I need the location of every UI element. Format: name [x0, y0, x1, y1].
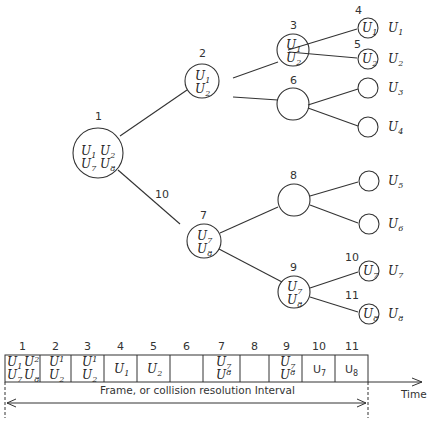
svg-text:U1: U1 [82, 355, 97, 369]
svg-text:11: 11 [345, 340, 359, 353]
svg-text:U8: U8 [345, 363, 358, 378]
svg-text:U8: U8 [388, 307, 403, 323]
svg-text:7: 7 [200, 209, 207, 222]
svg-text:U5: U5 [388, 174, 403, 190]
svg-text:1: 1 [19, 340, 26, 353]
svg-text:U2: U2 [362, 52, 377, 68]
svg-text:U3: U3 [388, 81, 403, 97]
svg-text:U2: U2 [24, 355, 39, 369]
svg-text:U1: U1 [49, 355, 64, 369]
time-label: Time [400, 388, 427, 400]
svg-text:11: 11 [345, 289, 359, 302]
svg-text:U1: U1 [114, 362, 129, 378]
svg-text:U2: U2 [82, 368, 97, 384]
svg-text:U7: U7 [363, 264, 379, 280]
svg-text:U2: U2 [147, 362, 162, 378]
svg-text:U8: U8 [280, 368, 295, 382]
svg-text:1: 1 [95, 110, 102, 123]
svg-text:10: 10 [155, 188, 169, 201]
svg-text:2: 2 [52, 340, 59, 353]
tree-diagram: 1 2 3 4 5 6 7 8 9 10 11 10 U1 U2 U7 U8 U… [0, 0, 433, 424]
svg-text:U6: U6 [388, 217, 403, 233]
svg-text:8: 8 [290, 169, 297, 182]
svg-text:U1: U1 [388, 21, 403, 37]
svg-text:10: 10 [345, 251, 359, 264]
svg-text:U2: U2 [388, 52, 403, 68]
svg-text:4: 4 [355, 4, 362, 17]
node-6 [277, 88, 309, 120]
svg-text:4: 4 [117, 340, 124, 353]
svg-text:U8: U8 [216, 368, 231, 382]
frame-label: Frame, or collision resolution Interval [100, 384, 295, 396]
svg-text:8: 8 [251, 340, 258, 353]
svg-text:5: 5 [354, 38, 361, 51]
svg-text:U4: U4 [388, 120, 403, 136]
svg-text:2: 2 [199, 47, 206, 60]
svg-text:3: 3 [84, 340, 91, 353]
svg-text:7: 7 [218, 340, 225, 353]
svg-text:U8: U8 [24, 368, 39, 384]
svg-text:5: 5 [150, 340, 157, 353]
svg-text:U2: U2 [49, 368, 64, 384]
svg-text:U1: U1 [362, 21, 377, 37]
node-8 [278, 184, 310, 216]
svg-text:9: 9 [283, 340, 290, 353]
svg-text:U8: U8 [363, 307, 378, 323]
svg-text:6: 6 [183, 340, 190, 353]
svg-text:3: 3 [290, 19, 297, 32]
svg-text:U7: U7 [313, 363, 326, 378]
svg-text:9: 9 [290, 261, 297, 274]
svg-text:10: 10 [312, 340, 326, 353]
svg-text:U7: U7 [388, 264, 404, 280]
svg-text:6: 6 [290, 74, 297, 87]
